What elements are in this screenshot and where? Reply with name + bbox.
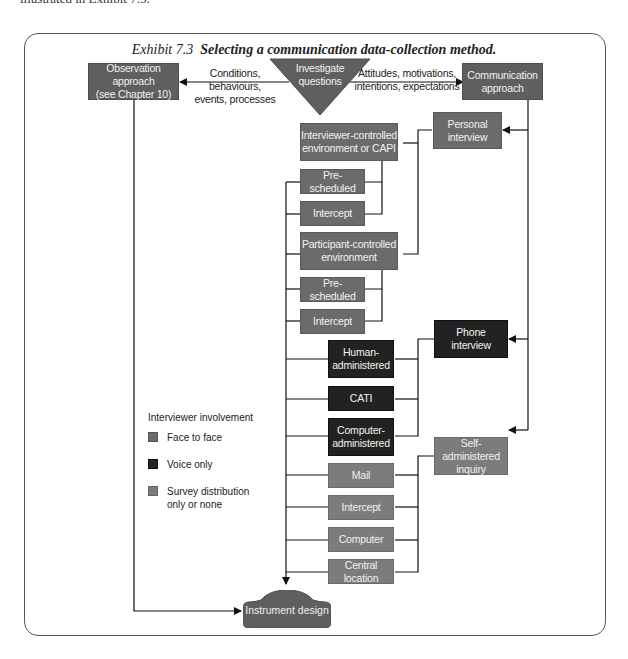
- pc-intercept-node: Intercept: [300, 309, 365, 334]
- central-location-node: Central location: [328, 559, 394, 584]
- survey-distribution-swatch-icon: [148, 486, 158, 496]
- personal-interview-node: Personal interview: [433, 112, 502, 149]
- legend-item-voice-only: Voice only: [148, 458, 213, 471]
- legend-item-survey-distribution: Survey distribution only or none: [148, 485, 249, 511]
- edge-label-observation: Conditions, behaviours, events, processe…: [183, 67, 287, 106]
- voice-only-swatch-icon: [148, 459, 158, 469]
- legend-item-face-to-face: Face to face: [148, 431, 222, 444]
- self-administered-node: Self-administered inquiry: [434, 437, 508, 475]
- instrument-design-node: Instrument design: [243, 604, 331, 616]
- pc-prescheduled-node: Pre-scheduled: [300, 277, 365, 302]
- computer-node: Computer: [328, 527, 394, 552]
- human-administered-node: Human- administered: [328, 340, 394, 378]
- sa-intercept-node: Intercept: [328, 495, 394, 520]
- mail-node: Mail: [328, 463, 394, 488]
- participant-controlled-node: Participant-controlled environment: [300, 232, 398, 270]
- cati-node: CATI: [328, 386, 394, 411]
- phone-interview-node: Phone interview: [434, 320, 508, 358]
- computer-administered-node: Computer- administered: [328, 418, 394, 456]
- communication-approach-node: Communication approach: [462, 63, 543, 100]
- ic-intercept-node: Intercept: [300, 201, 365, 226]
- face-to-face-swatch-icon: [148, 432, 158, 442]
- legend-title: Interviewer involvement: [148, 412, 253, 423]
- start-node-label: Investigate questions: [284, 62, 356, 88]
- edge-label-communication: Attitudes, motivations, intentions, expe…: [352, 67, 462, 93]
- observation-approach-node: Observation approach (see Chapter 10): [88, 63, 179, 100]
- ic-prescheduled-node: Pre-scheduled: [300, 169, 365, 194]
- interviewer-controlled-node: Interviewer-controlled environment or CA…: [300, 123, 398, 161]
